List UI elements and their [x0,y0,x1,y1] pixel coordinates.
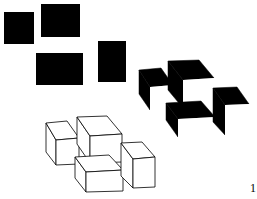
shaded-cube-front-face [178,117,215,137]
shaded-cube-4 [213,87,249,135]
wireframe-cube-front-face [86,170,123,192]
shaded-cube-front-face [225,104,249,135]
wireframe-cubes-group [46,116,155,192]
shaded-cube-2 [168,60,214,108]
wireframe-cube-4 [121,142,155,188]
black-rectangle-1 [4,12,34,44]
wireframe-cube-1 [46,121,79,165]
black-rectangle-2 [41,4,80,37]
figure-number-label: 1 [250,182,256,194]
figure-canvas [0,0,257,199]
shaded-cube-3 [166,101,215,137]
shaded-cubes-group [139,60,249,137]
black-rectangle-4 [98,41,126,82]
black-rectangles-group [4,4,126,85]
black-rectangle-3 [36,53,83,85]
wireframe-cube-front-face [133,157,155,188]
